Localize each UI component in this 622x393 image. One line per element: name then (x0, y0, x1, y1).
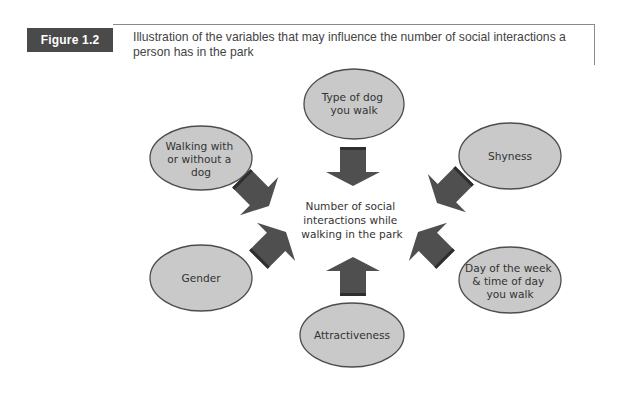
node-day-time: Day of the week & time of day you walk (459, 247, 561, 313)
arrow-from-day-time (399, 213, 465, 279)
node-walking-with-dog: Walking with or without a dog (150, 126, 252, 190)
node-gender: Gender (150, 245, 252, 311)
node-label-attractiveness: Attractiveness (314, 329, 390, 341)
node-attractiveness: Attractiveness (300, 303, 404, 367)
arrow-from-type-of-dog (326, 147, 380, 186)
influence-diagram: Type of dog you walk Walking with or wit… (0, 0, 622, 393)
node-label-shyness: Shyness (488, 150, 532, 162)
node-shyness: Shyness (459, 123, 561, 189)
node-type-of-dog: Type of dog you walk (304, 69, 404, 139)
node-label-type-of-dog: Type of dog you walk (321, 91, 387, 116)
center-outcome-label: Number of social interactions while walk… (301, 200, 403, 240)
arrow-from-attractiveness (326, 257, 380, 296)
node-label-gender: Gender (181, 272, 221, 284)
